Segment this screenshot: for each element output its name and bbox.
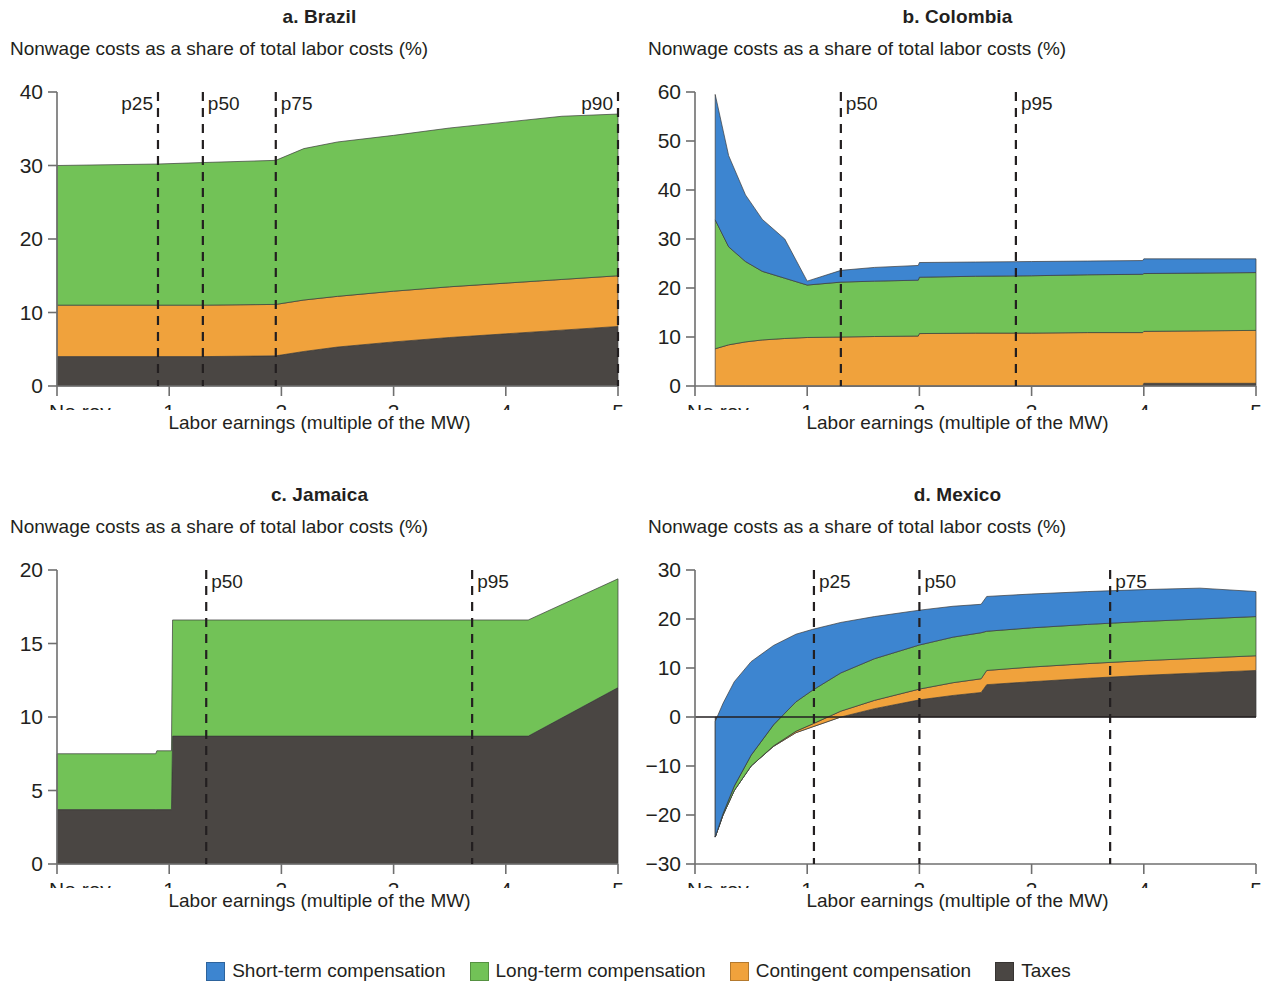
legend-item: Short-term compensation [206,960,445,982]
panel-title: b. Colombia [638,6,1277,28]
legend-label: Long-term compensation [496,960,706,982]
panel-title: c. Jamaica [0,484,639,506]
y-axis: 05101520 [20,558,57,875]
x-tick-label: 3 [1026,878,1038,888]
y-axis-title: Nonwage costs as a share of total labor … [648,516,1066,538]
legend-swatch-icon [730,962,749,981]
x-tick-label: No rev. [687,400,753,410]
y-tick-label: −20 [645,803,681,826]
y-axis: 0102030405060 [658,80,695,397]
y-tick-label: 15 [20,632,43,655]
x-tick-label: 5 [1250,878,1262,888]
legend-label: Short-term compensation [232,960,445,982]
x-tick-label: 4 [500,400,512,410]
percentile-label: p95 [1021,93,1053,114]
legend: Short-term compensationLong-term compens… [0,960,1277,982]
x-axis: No rev.12345 [49,386,624,410]
percentile-label: p75 [1115,571,1147,592]
x-tick-label: 5 [612,400,624,410]
y-tick-label: 10 [658,325,681,348]
panel-jamaica: c. Jamaica Nonwage costs as a share of t… [0,478,639,958]
x-tick-label: 4 [1138,878,1150,888]
x-tick-label: 1 [801,400,813,410]
x-axis-title: Labor earnings (multiple of the MW) [638,890,1277,912]
y-tick-label: 10 [658,656,681,679]
x-axis: No rev.12345 [687,864,1262,888]
legend-swatch-icon [995,962,1014,981]
x-axis-title: Labor earnings (multiple of the MW) [0,890,639,912]
x-axis-title: Labor earnings (multiple of the MW) [0,412,639,434]
plot-area: −30−20−100102030No rev.12345p25p50p75 [638,548,1277,888]
x-tick-label: 5 [1250,400,1262,410]
y-tick-label: 60 [658,80,681,103]
percentile-label: p90 [581,93,613,114]
y-axis: 010203040 [20,80,57,397]
area-contingent-compensation [715,330,1256,386]
stacked-bands [715,94,1256,386]
stacked-bands [57,114,618,386]
percentile-label: p25 [819,571,851,592]
y-tick-label: 10 [20,301,43,324]
plot-area: 010203040No rev.12345p25p50p75p90 [0,70,639,410]
x-tick-label: 2 [276,400,288,410]
y-axis-title: Nonwage costs as a share of total labor … [648,38,1066,60]
y-tick-label: 30 [20,154,43,177]
legend-swatch-icon [206,962,225,981]
x-tick-label: 3 [388,878,400,888]
percentile-label: p50 [211,571,243,592]
y-axis: −30−20−100102030 [645,558,695,875]
x-tick-label: 1 [163,878,175,888]
y-tick-label: 40 [20,80,43,103]
x-tick-label: 3 [388,400,400,410]
panel-title: a. Brazil [0,6,639,28]
area-long-term-compensation [57,114,618,305]
x-tick-label: 1 [163,400,175,410]
percentile-label: p25 [121,93,153,114]
x-tick-label: 1 [801,878,813,888]
panel-mexico: d. Mexico Nonwage costs as a share of to… [638,478,1277,958]
percentile-label: p50 [846,93,878,114]
y-tick-label: −10 [645,754,681,777]
area-short-term-compensation [715,94,1256,285]
panel-title: d. Mexico [638,484,1277,506]
panel-colombia: b. Colombia Nonwage costs as a share of … [638,0,1277,480]
legend-item: Contingent compensation [730,960,971,982]
area-long-term-compensation [715,220,1256,349]
y-tick-label: 40 [658,178,681,201]
y-tick-label: 50 [658,129,681,152]
percentile-label: p50 [924,571,956,592]
y-tick-label: 10 [20,705,43,728]
plot-area: 05101520No rev.12345p50p95 [0,548,639,888]
stacked-bands [715,588,1256,837]
legend-item: Long-term compensation [470,960,706,982]
legend-swatch-icon [470,962,489,981]
percentile-label: p95 [477,571,509,592]
panel-brazil: a. Brazil Nonwage costs as a share of to… [0,0,639,480]
legend-label: Contingent compensation [756,960,971,982]
x-tick-label: 5 [612,878,624,888]
y-tick-label: 0 [31,852,43,875]
y-tick-label: 0 [31,374,43,397]
x-tick-label: 4 [1138,400,1150,410]
y-axis-title: Nonwage costs as a share of total labor … [10,516,428,538]
x-tick-label: 3 [1026,400,1038,410]
percentile-label: p50 [208,93,240,114]
x-tick-label: 2 [914,400,926,410]
y-tick-label: 20 [20,558,43,581]
x-tick-label: 2 [276,878,288,888]
x-axis-title: Labor earnings (multiple of the MW) [638,412,1277,434]
x-tick-label: 4 [500,878,512,888]
y-tick-label: 0 [669,705,681,728]
y-tick-label: 5 [31,779,43,802]
y-tick-label: 30 [658,558,681,581]
x-tick-label: No rev. [687,878,753,888]
x-tick-label: No rev. [49,400,115,410]
x-axis: No rev.12345 [687,386,1262,410]
y-tick-label: −30 [645,852,681,875]
y-axis-title: Nonwage costs as a share of total labor … [10,38,428,60]
y-tick-label: 20 [658,276,681,299]
x-tick-label: No rev. [49,878,115,888]
stacked-bands [57,579,618,864]
legend-label: Taxes [1021,960,1071,982]
plot-area: 0102030405060No rev.12345p50p95 [638,70,1277,410]
